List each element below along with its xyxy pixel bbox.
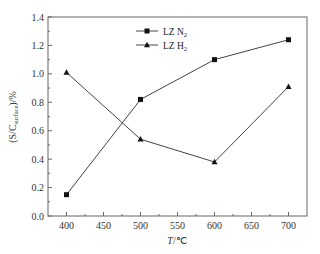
y-tick-label: 0.8 — [32, 97, 45, 108]
series-lz-h2 — [64, 69, 292, 164]
square-marker — [138, 97, 143, 102]
y-axis: 0.00.20.40.60.81.01.21.4 — [32, 12, 53, 222]
y-tick-label: 1.2 — [32, 40, 45, 51]
series-line — [67, 72, 289, 162]
x-axis-label: T/℃ — [167, 235, 186, 246]
legend-item: LZ H2 — [136, 41, 187, 52]
y-tick-label: 0.4 — [32, 154, 45, 165]
y-tick-label: 0.2 — [32, 182, 45, 193]
y-tick-label: 0.0 — [32, 211, 45, 222]
square-marker — [145, 29, 150, 34]
y-tick-label: 0.6 — [32, 125, 45, 136]
legend: LZ N2LZ H2 — [136, 27, 187, 52]
line-chart: 0.00.20.40.60.81.01.21.4 400450500550600… — [0, 0, 320, 254]
y-tick-label: 1.4 — [32, 12, 45, 23]
legend-label: LZ H2 — [163, 41, 187, 52]
x-tick-label: 450 — [96, 220, 111, 231]
x-tick-label: 400 — [59, 220, 74, 231]
legend-label: LZ N2 — [163, 27, 187, 38]
x-tick-label: 650 — [244, 220, 259, 231]
square-marker — [212, 57, 217, 62]
series-lz-n2 — [64, 37, 291, 197]
triangle-marker — [286, 83, 292, 89]
x-tick-label: 700 — [281, 220, 296, 231]
square-marker — [286, 37, 291, 42]
y-axis-label: (S/Csurface)/% — [7, 91, 19, 143]
x-tick-label: 600 — [207, 220, 222, 231]
data-series — [64, 37, 292, 197]
legend-item: LZ N2 — [136, 27, 187, 38]
x-tick-label: 550 — [170, 220, 185, 231]
series-line — [67, 40, 289, 195]
x-axis: 400450500550600650700 — [59, 212, 296, 231]
square-marker — [64, 192, 69, 197]
y-tick-label: 1.0 — [32, 68, 45, 79]
triangle-marker — [64, 69, 70, 75]
x-tick-label: 500 — [133, 220, 148, 231]
